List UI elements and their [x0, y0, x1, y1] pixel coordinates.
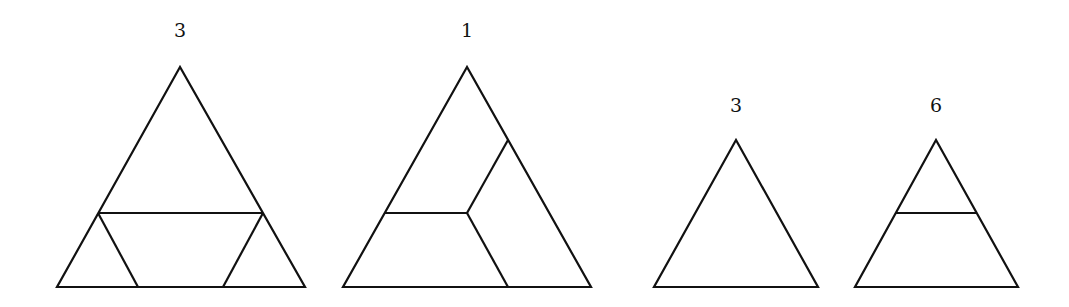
figure-2-outer-triangle [343, 67, 591, 287]
figure-1-left-cut [98, 213, 138, 287]
figure-1-right-cut [223, 213, 263, 287]
figure-1-label: 3 [174, 19, 186, 41]
figure-1-outer-triangle [57, 67, 305, 287]
figure-3-outer-triangle [654, 140, 818, 287]
figure-2-lower-cut [467, 213, 508, 287]
figure-2-label: 1 [461, 19, 473, 41]
figure-3-label: 3 [730, 94, 742, 116]
figure-4: 6 [855, 94, 1018, 287]
figure-4-label: 6 [930, 94, 942, 116]
figure-2: 1 [343, 19, 591, 287]
figure-3: 3 [654, 94, 818, 287]
figure-2-upper-cut [467, 140, 508, 213]
figure-1: 3 [57, 19, 305, 287]
diagram-canvas: 3 1 3 6 [0, 0, 1069, 307]
